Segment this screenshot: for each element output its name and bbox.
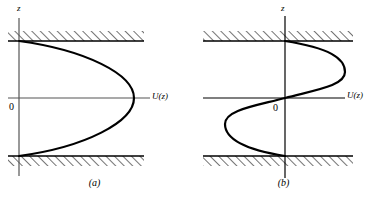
z-axis-label-a: z: [17, 4, 21, 13]
velocity-profile-figure: z U(z) 0 (a): [0, 0, 378, 202]
origin-label-b: 0: [273, 103, 278, 113]
bottom-wall-b: [203, 156, 353, 166]
panel-a-plot: [0, 0, 189, 202]
u-axis-label-a: U(z): [152, 92, 168, 101]
panel-caption-a: (a): [0, 178, 189, 188]
z-axis-label-b: z: [281, 4, 285, 13]
panel-a: z U(z) 0 (a): [0, 0, 189, 202]
panel-b: z U(z) 0 (b): [189, 0, 378, 202]
panel-caption-b: (b): [189, 178, 378, 188]
top-wall-a: [8, 31, 144, 41]
panel-b-plot: [189, 0, 378, 202]
top-wall-b: [203, 31, 353, 41]
u-axis-label-b: U(z): [347, 91, 363, 100]
bottom-wall-a: [8, 156, 144, 166]
origin-label-a: 0: [9, 102, 14, 112]
